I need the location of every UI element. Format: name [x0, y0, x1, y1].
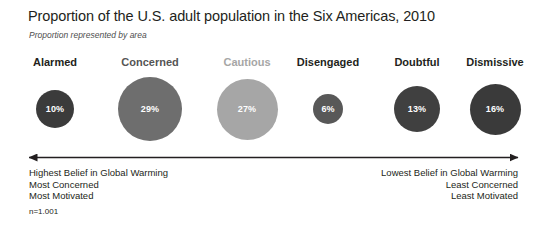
bubble-wrap-concerned: 29%: [104, 74, 196, 144]
category-columns: Alarmed 10% Concerned 29% Cautious 27%: [0, 56, 547, 146]
proportion-bubble-doubtful: 13%: [394, 86, 440, 132]
right-note-line-2: Least Concerned: [381, 179, 518, 191]
bubble-wrap-cautious: 27%: [201, 74, 293, 144]
bubble-value-cautious: 27%: [238, 105, 256, 114]
category-column-disengaged: Disengaged 6%: [282, 56, 374, 69]
left-note-line-2: Most Concerned: [29, 179, 168, 191]
category-label-dismissive: Dismissive: [449, 56, 541, 69]
right-note-line-3: Least Motivated: [381, 190, 518, 202]
left-note-line-3: Most Motivated: [29, 190, 168, 202]
category-label-cautious: Cautious: [201, 56, 293, 69]
chart-subtitle: Proportion represented by area: [29, 30, 147, 40]
proportion-bubble-concerned: 29%: [118, 77, 182, 141]
bubble-wrap-dismissive: 16%: [449, 74, 541, 144]
bubble-value-dismissive: 16%: [486, 105, 504, 114]
six-americas-infographic: Proportion of the U.S. adult population …: [0, 0, 547, 226]
bubble-value-alarmed: 10%: [46, 105, 64, 114]
spectrum-arrow-wrap: [0, 148, 547, 168]
sample-size-footnote: n=1.001: [29, 207, 58, 216]
proportion-bubble-dismissive: 16%: [470, 84, 521, 135]
category-column-cautious: Cautious 27%: [201, 56, 293, 69]
spectrum-note-left: Highest Belief in Global Warming Most Co…: [29, 167, 168, 202]
category-label-disengaged: Disengaged: [282, 56, 374, 69]
left-note-line-1: Highest Belief in Global Warming: [29, 167, 168, 179]
proportion-bubble-disengaged: 6%: [313, 94, 343, 124]
bubble-value-doubtful: 13%: [408, 105, 426, 114]
category-column-concerned: Concerned 29%: [104, 56, 196, 69]
category-column-dismissive: Dismissive 16%: [449, 56, 541, 69]
right-note-line-1: Lowest Belief in Global Warming: [381, 167, 518, 179]
spectrum-note-right: Lowest Belief in Global Warming Least Co…: [381, 167, 518, 202]
bubble-value-disengaged: 6%: [321, 105, 334, 114]
bubble-value-concerned: 29%: [141, 105, 159, 114]
double-headed-arrow-icon: [0, 148, 547, 168]
category-label-alarmed: Alarmed: [9, 56, 101, 69]
bubble-wrap-disengaged: 6%: [282, 74, 374, 144]
category-column-alarmed: Alarmed 10%: [9, 56, 101, 69]
proportion-bubble-alarmed: 10%: [36, 90, 74, 128]
category-label-concerned: Concerned: [104, 56, 196, 69]
page-title: Proportion of the U.S. adult population …: [28, 8, 435, 24]
proportion-bubble-cautious: 27%: [217, 79, 278, 140]
bubble-wrap-alarmed: 10%: [9, 74, 101, 144]
